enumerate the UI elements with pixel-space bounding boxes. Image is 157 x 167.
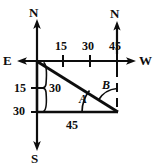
label-west: W — [139, 54, 152, 67]
label-v-tick-15: 15 — [14, 82, 26, 94]
label-east: E — [3, 54, 12, 67]
label-h-tick-30: 30 — [82, 40, 94, 52]
label-bottom-45: 45 — [66, 119, 78, 131]
label-h-tick-45: 45 — [109, 40, 121, 52]
label-north-primary: N — [29, 6, 38, 19]
label-angle-b: B — [102, 79, 110, 91]
surveying-traverse-diagram: N N E W S 15 30 45 15 30 30 45 A B — [0, 0, 157, 167]
vertical-leg-brace — [43, 63, 47, 112]
label-south: S — [31, 152, 38, 165]
label-h-tick-15: 15 — [55, 40, 67, 52]
label-brace-30: 30 — [49, 82, 61, 94]
label-north-secondary: N — [110, 7, 119, 20]
label-v-tick-30: 30 — [13, 105, 25, 117]
label-angle-a: A — [79, 93, 87, 105]
